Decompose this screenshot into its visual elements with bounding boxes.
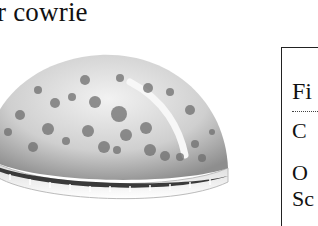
info-box-heading: Fi — [292, 78, 312, 105]
dotted-rule — [292, 111, 318, 112]
page-title: r cowrie — [0, 0, 88, 28]
info-box-line: Sc — [292, 186, 314, 212]
info-box-line: C — [292, 118, 307, 144]
cowrie-illustration — [0, 40, 230, 210]
info-box: Fi C O Sc — [281, 47, 318, 226]
info-box-line: O — [292, 160, 308, 186]
